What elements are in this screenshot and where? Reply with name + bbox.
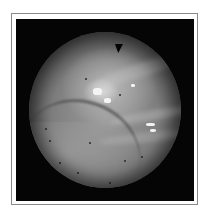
specular-highlight	[161, 54, 167, 56]
speck	[155, 172, 157, 174]
circular-field-of-view	[29, 32, 181, 188]
endoscopy-image	[16, 19, 194, 201]
lens-vignette	[29, 32, 181, 188]
speck	[147, 180, 149, 182]
